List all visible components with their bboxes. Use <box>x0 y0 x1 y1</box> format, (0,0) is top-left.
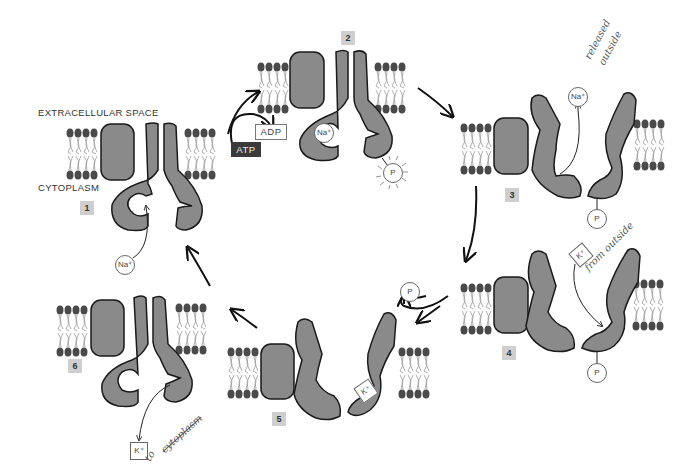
extracellular-space-label: EXTRACELLULAR SPACE <box>38 107 159 118</box>
stage-3 <box>461 93 665 210</box>
lipid-bilayer-right <box>399 348 430 399</box>
pump-subunit-block <box>91 300 124 356</box>
na-binding-arrow <box>133 206 147 258</box>
diagram-canvas <box>0 0 696 476</box>
k-binding-arrow <box>574 264 602 326</box>
lipid-bilayer-left <box>67 129 98 180</box>
stage-number-1: 1 <box>80 201 94 215</box>
pump-subunit-block <box>290 52 324 108</box>
stage-number-6: 6 <box>68 359 82 373</box>
sodium-ion-released: Na⁺ <box>568 87 588 107</box>
lipid-bilayer-right <box>375 63 406 114</box>
cycle-arrow-1-to-2 <box>228 92 258 134</box>
pump-alpha-left-half <box>526 251 574 352</box>
stage-number-4: 4 <box>502 346 516 360</box>
stage-number-2: 2 <box>341 31 355 45</box>
lipid-bilayer-left <box>57 306 88 357</box>
phosphate-stage-2: P <box>383 163 403 183</box>
lipid-bilayer-right <box>633 280 664 331</box>
sodium-ion-stage-2: Na⁺ <box>314 123 334 143</box>
lipid-bilayer-right <box>634 120 665 171</box>
lipid-bilayer-left <box>461 124 492 175</box>
pump-subunit-block <box>261 344 294 399</box>
lipid-bilayer-left <box>228 348 259 399</box>
stage-4 <box>461 249 664 364</box>
adp-label: ADP <box>255 124 287 140</box>
cytoplasm-label: CYTOPLASM <box>38 182 99 193</box>
phosphate-stage-3: P <box>587 209 607 229</box>
lipid-bilayer-right <box>176 304 207 355</box>
pump-alpha-right-half <box>348 313 396 416</box>
stage-2 <box>258 51 406 167</box>
sodium-ion-stage-1: Na⁺ <box>115 255 135 275</box>
pump-alpha-left-half <box>294 319 340 420</box>
pump-subunit-block <box>101 124 134 180</box>
na-release-arrow <box>560 104 579 174</box>
atp-label: ATP <box>231 142 261 157</box>
pump-alpha-right-half <box>588 93 636 199</box>
stage-number-5: 5 <box>272 412 286 426</box>
lipid-bilayer-left <box>461 284 492 335</box>
cycle-arrow-6-to-1 <box>188 248 210 286</box>
cycle-arrow-5-to-6 <box>232 310 257 328</box>
lipid-bilayer-left <box>258 63 289 114</box>
pump-subunit-block <box>494 118 528 174</box>
stage-number-3: 3 <box>505 188 519 202</box>
phosphate-released: P <box>400 282 420 302</box>
sodium-potassium-pump-diagram: EXTRACELLULAR SPACE CYTOPLASM 1 2 3 4 5 … <box>0 0 696 476</box>
stage-5 <box>228 296 449 420</box>
pump-alpha-left-half <box>531 95 581 198</box>
cycle-arrow-2-to-3 <box>418 88 452 116</box>
lipid-bilayer-right <box>185 129 216 180</box>
cycle-arrow-3-to-4 <box>466 186 476 260</box>
pump-subunit-block <box>494 277 528 333</box>
phosphate-stage-4: P <box>587 363 607 383</box>
